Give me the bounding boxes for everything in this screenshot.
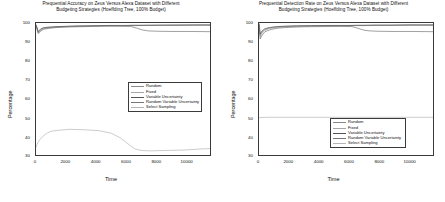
chart-title-line-1: Prequential Detection Rate on Zeus Versu…	[259, 1, 408, 6]
legend-swatch-variable-uncertainty	[131, 97, 144, 98]
legend-swatch-select-sampling	[333, 143, 346, 144]
legend-swatch-fixed	[131, 92, 144, 93]
legend-detection-rate[interactable]: Random Fixed Variable Uncertainty Random…	[330, 118, 406, 148]
legend-swatch-random-variable-uncertainty	[333, 138, 346, 139]
y-tick-label: 90	[231, 40, 253, 44]
x-tick-label: 2000	[50, 160, 80, 164]
legend-label-select-sampling: Select Sampling	[348, 141, 378, 146]
chart-title-line-2: Budgeting Strategies (Hoeffding Tree, 10…	[0, 7, 222, 13]
x-tick-label: 6000	[334, 160, 364, 164]
y-tick-label: 80	[231, 59, 253, 63]
series-line-variable-uncertainty	[259, 23, 433, 34]
x-tick-label: 8000	[364, 160, 394, 164]
series-line-random-variable-uncertainty	[36, 26, 210, 34]
figure-container: Prequential Accuracy on Zeus Versus Alex…	[0, 0, 445, 202]
y-axis-label: Percentage	[7, 90, 13, 118]
y-axis-label: Percentage	[230, 90, 236, 118]
y-tick-label: 40	[231, 136, 253, 140]
x-tick-label: 0	[20, 160, 50, 164]
y-tick-label: 30	[8, 154, 30, 158]
chart-panel-detection-rate: Prequential Detection Rate on Zeus Versu…	[222, 0, 445, 202]
chart-title-line-1: Prequential Accuracy on Zeus Versus Alex…	[42, 1, 179, 6]
x-tick-label: 4000	[304, 160, 334, 164]
x-axis-label: Time	[222, 176, 445, 182]
legend-swatch-fixed	[333, 128, 346, 129]
series-line-select-sampling	[36, 129, 210, 150]
legend-item-select-sampling[interactable]: Select Sampling	[333, 141, 403, 146]
x-tick-label: 4000	[81, 160, 111, 164]
y-tick-label: 100	[8, 21, 30, 25]
x-tick-label: 10000	[395, 160, 425, 164]
y-tick-label: 70	[8, 78, 30, 82]
legend-swatch-random-variable-uncertainty	[131, 102, 144, 103]
legend-swatch-random	[333, 122, 346, 123]
legend-swatch-variable-uncertainty	[333, 133, 346, 134]
legend-swatch-random	[131, 86, 144, 87]
y-tick-label: 90	[8, 40, 30, 44]
y-tick-label: 40	[8, 136, 30, 140]
x-tick-label: 6000	[111, 160, 141, 164]
y-tick-label: 70	[231, 78, 253, 82]
legend-accuracy[interactable]: Random Fixed Variable Uncertainty Random…	[128, 82, 202, 112]
legend-swatch-select-sampling	[131, 107, 144, 108]
x-tick-label: 0	[243, 160, 273, 164]
x-tick-label: 8000	[141, 160, 171, 164]
y-tick-label: 30	[231, 154, 253, 158]
y-tick-label: 100	[231, 21, 253, 25]
x-tick-label: 10000	[172, 160, 202, 164]
legend-item-select-sampling[interactable]: Select Sampling	[131, 105, 199, 110]
chart-title-line-2: Budgeting Strategies (Hoeffding Tree, 10…	[222, 7, 445, 13]
x-axis-label: Time	[0, 176, 222, 182]
legend-label-select-sampling: Select Sampling	[146, 105, 176, 110]
chart-title-accuracy: Prequential Accuracy on Zeus Versus Alex…	[0, 1, 222, 13]
x-tick-label: 2000	[273, 160, 303, 164]
chart-title-detection-rate: Prequential Detection Rate on Zeus Versu…	[222, 1, 445, 13]
chart-panel-accuracy: Prequential Accuracy on Zeus Versus Alex…	[0, 0, 222, 202]
y-tick-label: 80	[8, 59, 30, 63]
